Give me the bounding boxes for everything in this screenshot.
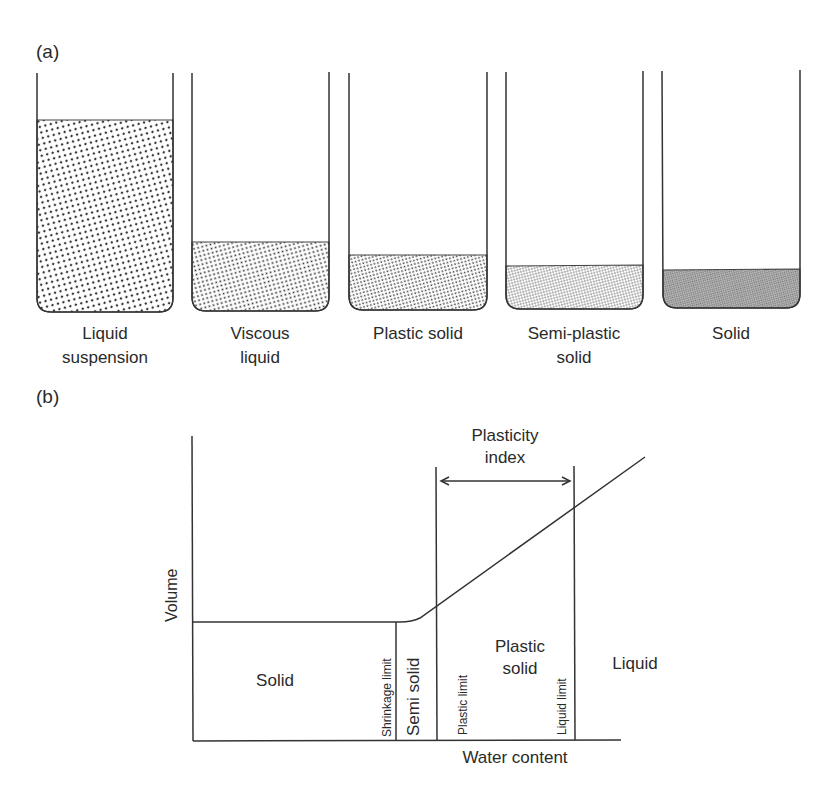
liquid-limit-line [574, 466, 575, 740]
panel-a-label: (a) [36, 41, 59, 63]
beaker-label-3: Plastic solid [338, 322, 498, 346]
beaker-label-1: Liquid suspension [25, 322, 185, 370]
label-line: suspension [25, 346, 185, 370]
region-plastic-solid: Plastic solid [470, 636, 570, 680]
label-line: index [440, 447, 570, 469]
label-line: liquid [180, 346, 340, 370]
y-axis-label: Volume [163, 569, 181, 622]
label-line: Semi-plastic [494, 322, 654, 346]
plastic-limit-line [436, 467, 437, 740]
label-line: Plastic [470, 636, 570, 658]
volume-curve [193, 457, 645, 622]
beaker-semi-plastic-solid [506, 71, 643, 309]
label-line: Plastic solid [338, 322, 498, 346]
beaker-label-4: Semi-plastic solid [494, 322, 654, 370]
beaker-plastic-solid [349, 72, 487, 310]
plastic-limit-label: Plastic limit [456, 675, 470, 735]
liquid-limit-label: Liquid limit [555, 678, 569, 735]
label-line: solid [470, 658, 570, 680]
x-axis-label: Water content [450, 746, 580, 770]
beaker-viscous-liquid [192, 72, 329, 311]
region-solid: Solid [225, 669, 325, 693]
beaker-label-2: Viscous liquid [180, 322, 340, 370]
label-line: Viscous [180, 322, 340, 346]
label-line: Plasticity [440, 425, 570, 447]
region-semi-solid: Semi solid [404, 658, 424, 736]
beaker-label-5: Solid [651, 322, 811, 346]
panel-b-label: (b) [36, 386, 59, 408]
y-axis [192, 436, 193, 741]
label-line: Liquid [25, 322, 185, 346]
shrinkage-limit-label: Shrinkage limit [380, 658, 394, 737]
plasticity-index-label: Plasticity index [440, 425, 570, 469]
beaker-solid [662, 70, 800, 308]
region-liquid: Liquid [595, 652, 675, 676]
label-line: solid [494, 346, 654, 370]
x-axis [193, 740, 621, 741]
beaker-liquid-suspension [37, 73, 173, 312]
label-line: Solid [651, 322, 811, 346]
